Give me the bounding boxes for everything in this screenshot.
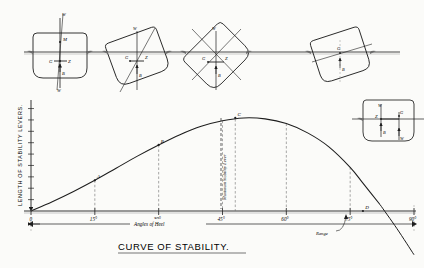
- max-lever-label: Maximum Stability Lever: [222, 154, 227, 201]
- ship1-label-w-top: W: [62, 12, 67, 17]
- stability-curve-figure: W M G Z B W W G Z B: [0, 0, 424, 268]
- x-tick-label: 15°: [90, 216, 97, 222]
- ship2-label-g: G: [125, 55, 129, 60]
- ship-section-heeled-large: G B: [305, 26, 376, 84]
- ship3-label-z: Z: [225, 56, 228, 61]
- figure-title: CURVE OF STABILITY.: [118, 241, 229, 252]
- ship1-label-g: G: [49, 59, 53, 64]
- curve-point-label: B: [161, 139, 164, 144]
- x-tick-label: 60°: [281, 216, 288, 222]
- curve-point: [158, 144, 160, 146]
- ship5-label-w2: W: [400, 136, 404, 141]
- ship5-label-b: B: [383, 130, 386, 135]
- ship-section-heeled-extreme: W Z G B W: [352, 100, 424, 141]
- range-label: Range: [315, 231, 328, 236]
- ship-section-heeled-small: W G Z B: [102, 26, 172, 92]
- figure-title-group: CURVE OF STABILITY.: [118, 241, 246, 253]
- ship5-label-z: G: [400, 110, 404, 115]
- drop-lines: [95, 119, 414, 211]
- curve-point-markers: ABCD: [94, 112, 369, 212]
- x-axis-ticks: 015°30°45°60°75°90°: [29, 208, 416, 222]
- figure-canvas: W M G Z B W W G Z B: [0, 0, 424, 268]
- curve-tail-path: [380, 204, 414, 254]
- x-tick-label: 90°: [409, 216, 416, 222]
- ship-section-heeled-mid: W G Z B: [180, 21, 252, 91]
- y-axis-label: LENGTH OF STABILITY LEVERS.: [17, 104, 23, 206]
- curve-point: [362, 210, 364, 212]
- ship1-label-w-bottom: W: [57, 88, 62, 93]
- curve-point: [94, 179, 96, 181]
- curve-point-label: D: [364, 205, 369, 210]
- ship2-label-b: B: [139, 73, 142, 78]
- ship-section-upright: W M G Z B W: [27, 12, 93, 93]
- x-axis: 015°30°45°60°75°90°: [24, 208, 416, 222]
- ship2-label-z: Z: [145, 55, 148, 60]
- x-tick-label: 45°: [218, 216, 225, 222]
- ship2-label-w: W: [133, 26, 137, 31]
- ship5-label-w: W: [378, 103, 382, 108]
- ship3-label-g: G: [202, 56, 206, 61]
- ship3-label-w: W: [212, 26, 216, 31]
- stability-curve: [31, 118, 380, 211]
- ship4-label-b: B: [342, 67, 345, 72]
- curve-point-label: C: [237, 112, 241, 117]
- curve-point: [234, 117, 236, 119]
- ship1-label-z: Z: [68, 59, 71, 64]
- ship3-label-b: B: [218, 73, 221, 78]
- ship1-label-m: M: [62, 37, 68, 42]
- max-lever-annotation: Maximum Stability Lever: [221, 118, 227, 209]
- ship5-label-g: Z: [375, 114, 378, 119]
- ship1-label-b: B: [62, 71, 65, 76]
- stability-curve-tail: [380, 204, 414, 254]
- x-axis-label: Angles of Heel: [133, 221, 165, 227]
- ship4-label-g: G: [337, 46, 341, 51]
- y-axis: LENGTH OF STABILITY LEVERS.: [17, 100, 34, 211]
